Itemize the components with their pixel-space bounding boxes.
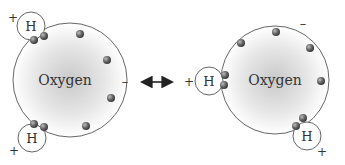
right-h-bottom-charge: + bbox=[317, 145, 327, 159]
left-water-molecule: Oxygen H + H + – bbox=[8, 11, 128, 158]
left-h-top-charge: + bbox=[8, 11, 18, 25]
left-hydrogen-top-label: H bbox=[25, 19, 36, 34]
right-oxygen-label: Oxygen bbox=[248, 72, 302, 88]
left-oxygen-charge: – bbox=[122, 74, 129, 89]
right-hydrogen-left-label: H bbox=[203, 74, 214, 89]
left-hydrogen-bottom-label: H bbox=[26, 131, 37, 146]
left-oxygen-label: Oxygen bbox=[38, 72, 92, 88]
water-molecule-diagram: Oxygen H + H + – Oxygen H + H + – bbox=[0, 0, 345, 165]
right-oxygen-charge: – bbox=[300, 16, 307, 31]
right-h-left-charge: + bbox=[184, 75, 194, 89]
right-water-molecule: Oxygen H + H + – bbox=[184, 16, 329, 159]
left-h-bottom-charge: + bbox=[9, 144, 19, 158]
right-hydrogen-bottom-label: H bbox=[301, 129, 312, 144]
